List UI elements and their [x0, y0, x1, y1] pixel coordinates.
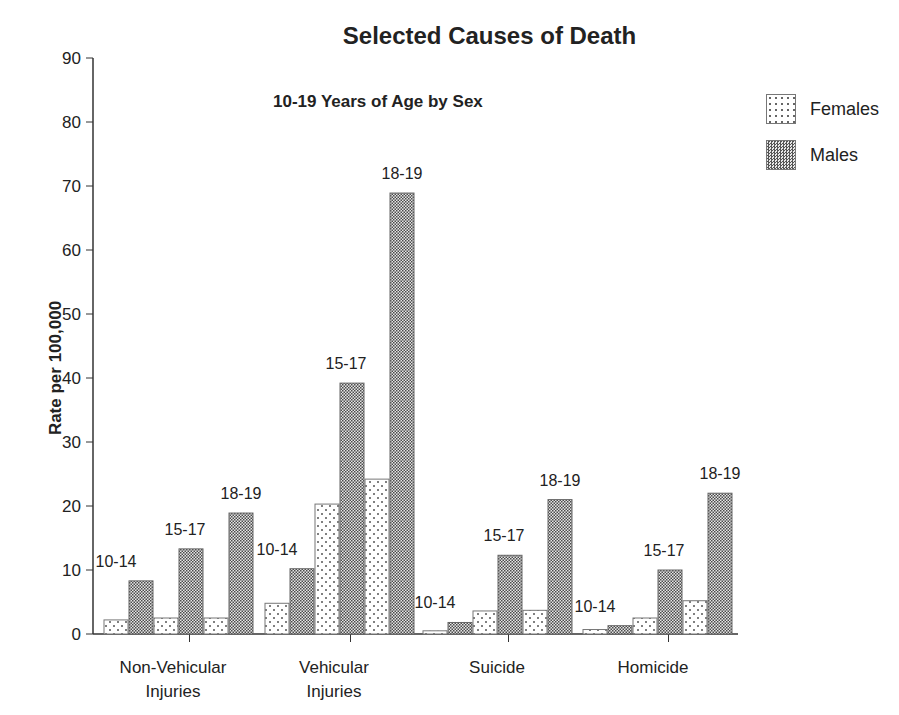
y-tick-label: 80 [62, 113, 81, 132]
age-group-label: 18-19 [700, 465, 741, 482]
bar-females [683, 601, 707, 634]
age-group-label: 15-17 [165, 521, 206, 538]
y-tick-label: 70 [62, 177, 81, 196]
age-group-label: 10-14 [257, 541, 298, 558]
bar-males [658, 570, 682, 634]
bar-males [290, 569, 314, 634]
bar-males [548, 500, 572, 634]
bar-males [229, 513, 253, 634]
bar-males [129, 581, 153, 634]
bar-females [154, 618, 178, 634]
bar-females [265, 603, 289, 634]
bar-females [583, 630, 607, 634]
bar-males [708, 493, 732, 634]
x-category-label: VehicularInjuries [254, 656, 414, 704]
y-tick-label: 30 [62, 433, 81, 452]
age-group-label: 10-14 [575, 598, 616, 615]
age-labels: 10-1415-1718-1910-1415-1718-1910-1415-17… [96, 165, 741, 615]
age-group-label: 15-17 [644, 542, 685, 559]
age-group-label: 18-19 [221, 485, 262, 502]
legend-item-males: Males [766, 136, 879, 174]
x-category-label: Suicide [417, 656, 577, 680]
age-group-label: 15-17 [326, 355, 367, 372]
y-tick-label: 60 [62, 241, 81, 260]
age-group-label: 10-14 [96, 553, 137, 570]
males-swatch-icon [766, 140, 796, 170]
y-tick-label: 0 [72, 625, 81, 644]
y-tick-label: 50 [62, 305, 81, 324]
bar-males [340, 383, 364, 634]
bar-females [104, 620, 128, 634]
bar-females [365, 479, 389, 634]
bar-males [390, 193, 414, 634]
plot-area: 0102030405060708090 10-1415-1718-1910-14… [0, 0, 899, 715]
bar-females [633, 618, 657, 634]
bar-females [423, 631, 447, 634]
bar-females [523, 610, 547, 634]
x-category-label: Homicide [573, 656, 733, 680]
legend: Females Males [766, 90, 879, 182]
age-group-label: 10-14 [415, 594, 456, 611]
bar-females [473, 611, 497, 634]
legend-item-females: Females [766, 90, 879, 128]
y-tick-label: 10 [62, 561, 81, 580]
y-tick-label: 90 [62, 49, 81, 68]
bar-males [498, 555, 522, 634]
bar-females [204, 618, 228, 634]
bar-males [179, 549, 203, 634]
bar-males [608, 626, 632, 634]
y-tick-label: 40 [62, 369, 81, 388]
bars [104, 193, 732, 634]
females-swatch-icon [766, 94, 796, 124]
age-group-label: 15-17 [484, 527, 525, 544]
x-category-label: Non-VehicularInjuries [93, 656, 253, 704]
age-group-label: 18-19 [540, 472, 581, 489]
legend-label-males: Males [810, 145, 858, 166]
y-tick-label: 20 [62, 497, 81, 516]
legend-label-females: Females [810, 99, 879, 120]
bar-females [315, 504, 339, 634]
bar-males [448, 622, 472, 634]
age-group-label: 18-19 [382, 165, 423, 182]
